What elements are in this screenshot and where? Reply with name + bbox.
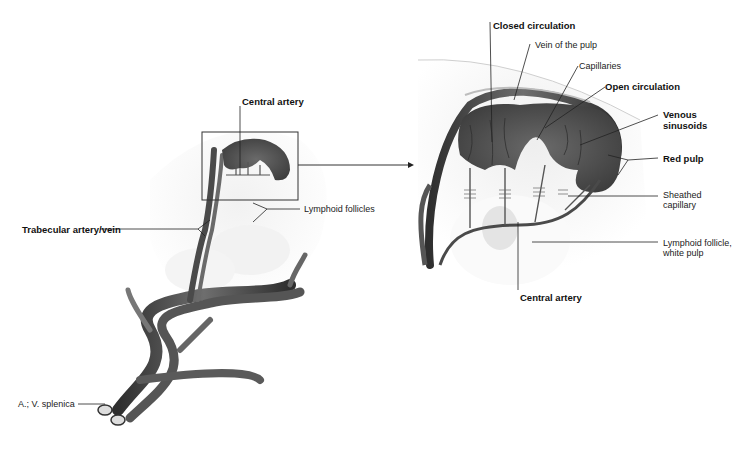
label-closed-circulation: Closed circulation: [493, 20, 575, 31]
label-capillaries: Capillaries: [579, 61, 621, 72]
label-red-pulp: Red pulp: [663, 153, 704, 164]
label-central-artery-detail: Central artery: [520, 292, 582, 303]
label-sheathed-capillary-line2: capillary: [663, 200, 696, 211]
label-open-circulation: Open circulation: [605, 81, 680, 92]
detail-panel: [418, 22, 658, 290]
label-venous-sinusoids-line2: sinusoids: [663, 120, 707, 131]
arrow-icon: [408, 162, 414, 168]
label-central-artery-overview: Central artery: [242, 96, 304, 107]
label-vein-of-pulp: Vein of the pulp: [535, 40, 597, 51]
label-lymphoid-follicles: Lymphoid follicles: [304, 204, 375, 215]
label-splenic-artery-vein: A.; V. splenica: [18, 399, 75, 410]
label-trabecular-artery-vein: Trabecular artery/vein: [22, 224, 121, 235]
overview-panel: [78, 106, 414, 425]
label-lymphoid-follicle-line2: white pulp: [663, 248, 704, 259]
label-venous-sinusoids-line1: Venous: [663, 109, 697, 120]
